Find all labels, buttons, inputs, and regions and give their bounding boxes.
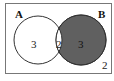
venn-diagram: A B 3 2 3 2: [0, 0, 114, 81]
intersection-count: 2: [56, 38, 62, 50]
set-a-label: A: [15, 8, 23, 20]
a-only-count: 3: [31, 38, 37, 50]
outside-count: 2: [102, 59, 108, 71]
b-only-count: 3: [78, 38, 84, 50]
set-b-label: B: [98, 8, 106, 20]
